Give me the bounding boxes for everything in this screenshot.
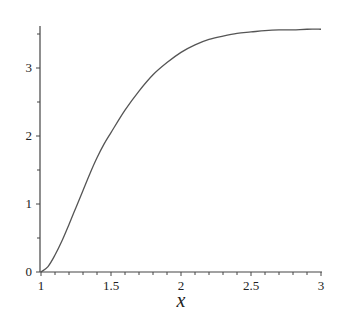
x-tick-label: 1.5 — [103, 278, 119, 293]
x-axis-label: x — [176, 289, 186, 311]
line-chart: 11.522.530123 x — [0, 0, 343, 334]
x-tick-label: 3 — [318, 278, 325, 293]
x-tick-label: 2.5 — [243, 278, 259, 293]
data-curve — [41, 29, 321, 272]
y-tick-label: 0 — [26, 264, 33, 279]
axes — [40, 26, 322, 272]
y-tick-label: 2 — [26, 128, 33, 143]
y-tick-label: 1 — [26, 196, 33, 211]
tick-labels: 11.522.530123 — [26, 60, 325, 293]
ticks — [36, 34, 321, 276]
y-tick-label: 3 — [26, 60, 33, 75]
x-tick-label: 1 — [38, 278, 45, 293]
